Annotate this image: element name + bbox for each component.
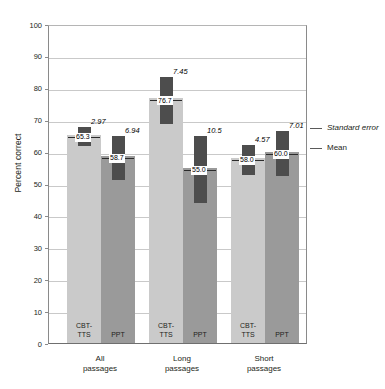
y-axis-tick-label: 100 [16, 21, 42, 30]
y-axis-tick-mark [45, 89, 48, 90]
bar-series-label: CBT-TTS [231, 322, 265, 339]
y-axis-tick-mark [45, 280, 48, 281]
y-axis-tick-mark [45, 185, 48, 186]
y-axis-tick-mark [45, 57, 48, 58]
bar: CBT-TTS [149, 98, 183, 343]
y-axis-tick-label: 0 [16, 340, 42, 349]
y-axis-tick-mark [45, 25, 48, 26]
mean-value-label: 58.0 [239, 156, 255, 165]
plot-area: CBT-TTS65.32.97PPT58.76.94CBT-TTS76.77.4… [48, 25, 307, 344]
x-axis-group-label: Longpassages [152, 354, 212, 374]
mean-value-label: 76.7 [157, 96, 173, 105]
y-axis-tick-label: 20 [16, 276, 42, 285]
x-axis-group-label: Shortpassages [234, 354, 294, 374]
x-axis-group-label: Allpassages [70, 354, 130, 374]
mean-value-label: 60.0 [273, 150, 289, 159]
gridline [49, 58, 306, 59]
bar: PPT [265, 152, 299, 343]
bar-series-label: CBT-TTS [149, 322, 183, 339]
bar-series-label: PPT [265, 331, 299, 340]
legend-connector-line [310, 148, 322, 149]
y-axis-tick-mark [45, 312, 48, 313]
bar-series-label: PPT [183, 331, 217, 340]
y-axis-tick-label: 80 [16, 84, 42, 93]
y-axis-tick-label: 10 [16, 308, 42, 317]
y-axis-tick-label: 90 [16, 52, 42, 61]
bar-series-label: PPT [101, 331, 135, 340]
bar: CBT-TTS [231, 158, 265, 343]
mean-value-label: 55.0 [191, 166, 207, 175]
y-axis-tick-label: 30 [16, 244, 42, 253]
mean-value-label: 65.3 [75, 133, 91, 142]
bar: PPT [101, 156, 135, 343]
y-axis-tick-mark [45, 121, 48, 122]
y-axis-tick-mark [45, 216, 48, 217]
y-axis-tick-mark [45, 153, 48, 154]
mean-value-label: 58.7 [109, 154, 125, 163]
standard-error-label: 7.01 [289, 122, 304, 130]
bar: CBT-TTS [67, 135, 101, 343]
gridline [49, 90, 306, 91]
y-axis-tick-label: 40 [16, 212, 42, 221]
y-axis-tick-label: 60 [16, 148, 42, 157]
legend-connector-line [310, 128, 322, 129]
standard-error-label: 4.57 [255, 136, 270, 144]
standard-error-label: 7.45 [173, 68, 188, 76]
y-axis-tick-mark [45, 344, 48, 345]
standard-error-label: 2.97 [91, 118, 106, 126]
legend-label: Standard error [327, 123, 379, 132]
standard-error-label: 10.5 [207, 127, 222, 135]
standard-error-label: 6.94 [125, 127, 140, 135]
bar-chart: Percent correct CBT-TTS65.32.97PPT58.76.… [0, 0, 385, 389]
legend-label: Mean [327, 143, 347, 152]
y-axis-tick-label: 70 [16, 116, 42, 125]
y-axis-tick-label: 50 [16, 180, 42, 189]
bar-series-label: CBT-TTS [67, 322, 101, 339]
y-axis-tick-mark [45, 248, 48, 249]
